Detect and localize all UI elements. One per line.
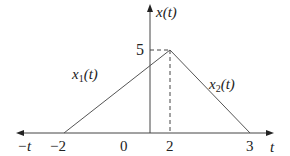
peak-value-label: 5 xyxy=(136,42,144,58)
tick-2: 2 xyxy=(166,139,174,154)
tick-3: 3 xyxy=(246,139,254,154)
segment-x1 xyxy=(64,50,170,133)
tick-neg2: −2 xyxy=(50,139,66,154)
tick-2-text: 2 xyxy=(166,138,174,154)
peak-value-text: 5 xyxy=(136,41,144,58)
tick-neg2-text: −2 xyxy=(50,138,66,154)
t-axis-left-arrow-icon xyxy=(16,130,24,136)
t-axis-label-text: t xyxy=(270,139,274,155)
tick-0: 0 xyxy=(120,139,128,154)
signal-diagram: x(t) 5 x1(t) x2(t) −t −2 0 2 3 t xyxy=(0,0,290,156)
neg-t-label: −t xyxy=(17,139,31,154)
x1-name: x xyxy=(72,66,79,82)
x2-name: x xyxy=(209,76,216,92)
x2-arg: (t) xyxy=(221,76,235,92)
segment-x1-label: x1(t) xyxy=(72,67,98,84)
y-axis-label-text: x(t) xyxy=(156,4,177,20)
y-axis-label: x(t) xyxy=(156,5,177,20)
x-axis-up-arrow-icon xyxy=(147,4,153,12)
x1-arg: (t) xyxy=(84,66,98,82)
tick-0-text: 0 xyxy=(120,138,128,154)
tick-3-text: 3 xyxy=(246,138,254,154)
neg-t-text: −t xyxy=(17,138,31,154)
diagram-canvas xyxy=(0,0,290,156)
t-axis-label: t xyxy=(270,140,274,155)
segment-x2-label: x2(t) xyxy=(209,77,235,94)
t-axis-right-arrow-icon xyxy=(266,130,274,136)
